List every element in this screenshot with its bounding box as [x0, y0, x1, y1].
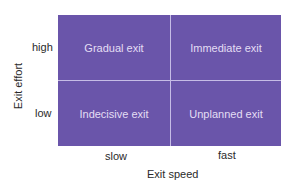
y-axis-label: Exit effort	[12, 56, 24, 116]
horizontal-divider	[58, 80, 281, 81]
cell-gradual-exit: Gradual exit	[58, 15, 170, 80]
cell-unplanned-exit: Unplanned exit	[171, 81, 281, 146]
x-axis-label: Exit speed	[147, 168, 198, 180]
y-tick-low: low	[35, 107, 52, 119]
cell-immediate-exit: Immediate exit	[171, 15, 281, 80]
x-tick-slow: slow	[105, 150, 127, 162]
matrix-grid: Gradual exit Immediate exit Indecisive e…	[58, 15, 281, 146]
y-tick-high: high	[32, 41, 53, 53]
cell-indecisive-exit: Indecisive exit	[58, 81, 170, 146]
x-tick-fast: fast	[218, 149, 236, 161]
